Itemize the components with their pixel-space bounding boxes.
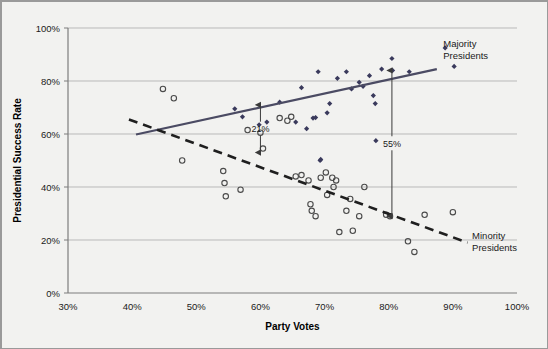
annotation-label-21: 21%: [251, 124, 269, 134]
y-tick-label-20: 20%: [41, 235, 61, 246]
y-axis-title: Presidential Success Rate: [12, 98, 23, 223]
series-label-majority: Majority: [443, 38, 477, 49]
y-tick-label-60: 60%: [41, 129, 61, 140]
y-tick-label-0: 0%: [46, 288, 60, 299]
annotation-label-55: 55%: [383, 139, 401, 149]
x-tick-label-100: 100%: [505, 301, 530, 312]
x-tick-label-90: 90%: [443, 301, 463, 312]
y-tick-label-80: 80%: [41, 76, 61, 87]
x-axis-title: Party Votes: [265, 321, 320, 332]
x-tick-label-30: 30%: [58, 301, 78, 312]
x-tick-label-50: 50%: [187, 301, 207, 312]
plot-background: [68, 28, 517, 293]
x-tick-label-70: 70%: [315, 301, 335, 312]
plot-area: 21%55%: [64, 28, 517, 293]
x-tick-label-40: 40%: [123, 301, 143, 312]
x-tick-label-80: 80%: [379, 301, 399, 312]
y-tick-label-100: 100%: [36, 23, 61, 34]
series-label-minority-line2: Presidents: [472, 242, 517, 253]
chart-figure: 21%55% 30%40%50%60%70%80%90%100% 0%20%40…: [0, 0, 548, 349]
series-label-minority: Minority: [472, 230, 506, 241]
y-tick-label-40: 40%: [41, 182, 61, 193]
series-label-majority-line2: Presidents: [443, 50, 488, 61]
scatter-chart: 21%55% 30%40%50%60%70%80%90%100% 0%20%40…: [1, 1, 548, 349]
x-tick-label-60: 60%: [251, 301, 271, 312]
